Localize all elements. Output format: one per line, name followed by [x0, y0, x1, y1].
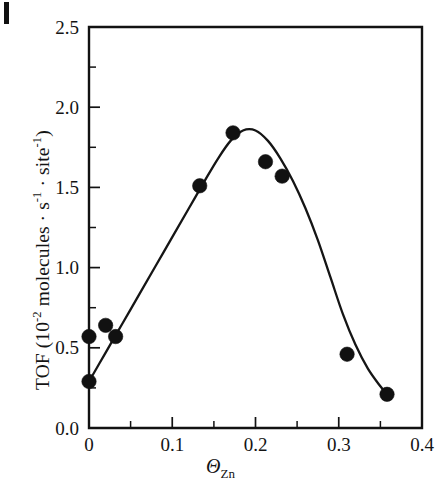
y-axis-label-exp3: -1: [30, 137, 44, 148]
y-axis-label-mid: molecules · s: [32, 202, 53, 311]
data-point: [98, 318, 112, 332]
y-tick-label-0: 0.0: [55, 418, 79, 439]
plot-frame: [89, 27, 422, 428]
y-axis-label-suffix: ): [32, 130, 53, 137]
data-points-group: [82, 126, 394, 402]
data-point: [82, 374, 96, 388]
x-tick-label-2: 0.2: [244, 434, 268, 455]
y-axis-label-exp1: -2: [30, 311, 44, 322]
y-tick-label-1: 0.5: [55, 337, 79, 358]
data-point: [380, 387, 394, 401]
y-axis-label-mid2: · site: [32, 147, 53, 191]
y-tick-labels: 0.0 0.5 1.0 1.5 2.0 2.5: [55, 17, 79, 439]
data-point: [275, 169, 289, 183]
axes-box: [89, 27, 422, 428]
x-axis-major-ticks: [89, 417, 422, 428]
figure-root: 0.0 0.5 1.0 1.5 2.0 2.5 0 0.1 0.2 0.3 0.…: [0, 0, 441, 497]
y-axis-label-prefix: TOF (10: [32, 322, 53, 390]
x-tick-labels: 0 0.1 0.2 0.3 0.4: [84, 434, 434, 455]
data-point: [193, 179, 207, 193]
data-point: [340, 347, 354, 361]
data-point: [108, 329, 122, 343]
x-axis-label-subscript: Zn: [221, 466, 235, 481]
x-tick-label-0: 0: [84, 434, 94, 455]
data-point: [258, 155, 272, 169]
y-tick-label-5: 2.5: [55, 17, 79, 38]
y-tick-label-2: 1.0: [55, 257, 79, 278]
x-tick-label-1: 0.1: [160, 434, 184, 455]
x-axis-label-container: ΘZn: [0, 455, 441, 482]
x-axis-label-symbol: Θ: [206, 455, 220, 477]
y-tick-label-4: 2.0: [55, 97, 79, 118]
x-tick-label-4: 0.4: [410, 434, 434, 455]
data-point: [82, 329, 96, 343]
x-tick-label-3: 0.3: [327, 434, 351, 455]
chart-canvas: 0.0 0.5 1.0 1.5 2.0 2.5 0 0.1 0.2 0.3 0.…: [0, 0, 441, 497]
y-tick-label-3: 1.5: [55, 177, 79, 198]
data-point: [226, 126, 240, 140]
y-axis-label-exp2: -1: [30, 192, 44, 203]
y-axis-label-container: TOF (10-2 molecules · s-1 · site-1): [0, 0, 40, 497]
y-axis-label: TOF (10-2 molecules · s-1 · site-1): [30, 130, 54, 390]
